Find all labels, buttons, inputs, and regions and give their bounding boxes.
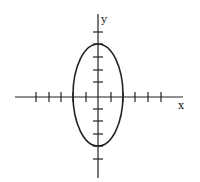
y-axis-label: y bbox=[100, 13, 108, 26]
ellipse-diagram: y x bbox=[0, 0, 200, 182]
x-axis-label: x bbox=[178, 99, 185, 112]
